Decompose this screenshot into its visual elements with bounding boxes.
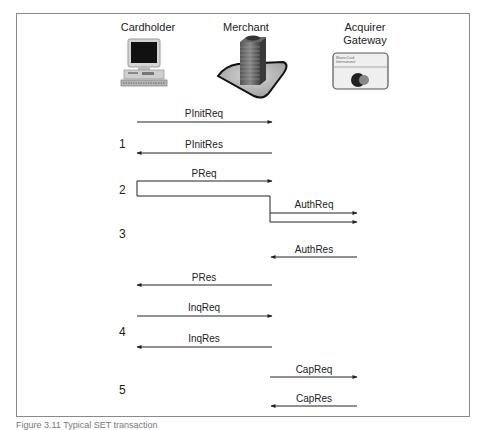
step-number-5: 5: [119, 383, 126, 397]
arrow-preq: [137, 181, 272, 196]
figure-caption: Figure 3.11 Typical SET transaction: [16, 420, 158, 430]
computer-icon: [121, 39, 167, 86]
msg-label-capres: CapRes: [284, 393, 344, 404]
step-number-1: 1: [119, 137, 126, 151]
step-number-4: 4: [119, 325, 126, 339]
msg-label-authres: AuthRes: [284, 244, 344, 255]
msg-label-pres: PRes: [174, 272, 234, 283]
msg-label-authreq: AuthReq: [284, 199, 344, 210]
step-number-3: 3: [119, 227, 126, 241]
mastercard-card-icon: MasterCard International: [333, 53, 388, 89]
card-brand-subtext: International: [336, 60, 355, 64]
step-number-2: 2: [119, 183, 126, 197]
msg-label-preq: PReq: [174, 168, 234, 179]
msg-label-pinitreq: PInitReq: [174, 108, 234, 119]
msg-label-capreq: CapReq: [284, 364, 344, 375]
msg-label-inqreq: InqReq: [174, 302, 234, 313]
sequence-diagram: MasterCard International: [0, 0, 484, 430]
msg-label-pinitres: PInitRes: [174, 139, 234, 150]
office-building-icon: [218, 36, 287, 98]
preq-bracket-bottom: [137, 196, 270, 222]
msg-label-inqres: InqRes: [174, 333, 234, 344]
